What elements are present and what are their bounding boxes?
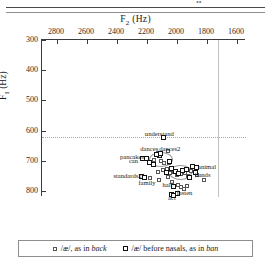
reference-line-vertical — [218, 40, 219, 197]
x-tick-label: 2200 — [138, 27, 154, 36]
y-tick-label: 800 — [14, 185, 38, 194]
x-tick — [237, 40, 238, 44]
x-tick-label: 2800 — [48, 27, 64, 36]
legend-item-label: /æ/, as in back — [61, 244, 107, 253]
open-square-icon — [53, 247, 57, 251]
y-tick — [42, 40, 46, 41]
point-label: can — [129, 157, 138, 164]
point-label: fasten — [177, 189, 193, 196]
x-tick — [207, 40, 208, 44]
reference-line-horizontal — [42, 137, 246, 138]
x-tick-label: 1600 — [228, 27, 244, 36]
point-label: family — [138, 179, 155, 186]
page-top-rule-upper — [6, 7, 265, 8]
y-tick — [42, 191, 46, 192]
legend-item-nasal[interactable]: /æ/ before nasals, as in ban — [123, 244, 219, 253]
point-label: understand — [145, 130, 174, 137]
x-tick — [57, 40, 58, 44]
data-point — [184, 167, 189, 172]
x-axis-tick-labels: 2800260024002200200018001600 — [0, 27, 271, 38]
page-header-fragment: •• — [196, 0, 218, 6]
x-tick-label: 1800 — [198, 27, 214, 36]
x-tick — [117, 40, 118, 44]
point-label: standards2 — [113, 172, 141, 179]
data-point — [162, 161, 166, 165]
data-point — [156, 170, 160, 174]
x-tick — [87, 40, 88, 44]
data-point — [151, 162, 156, 167]
data-point — [190, 164, 195, 169]
y-tick-label: 300 — [14, 35, 38, 44]
legend-item-back[interactable]: /æ/, as in back — [53, 244, 107, 253]
y-tick — [42, 131, 46, 132]
scatter-plot: F2 (Hz) 2800260024002200200018001600 F1 … — [0, 14, 271, 232]
x-tick-label: 2600 — [78, 27, 94, 36]
y-axis-title: F1 (Hz) — [0, 71, 11, 100]
data-point — [185, 184, 189, 188]
data-point — [164, 170, 169, 175]
point-label: hands — [195, 171, 210, 178]
y-tick-label: 600 — [14, 125, 38, 134]
y-tick-label: 500 — [14, 95, 38, 104]
data-point — [158, 151, 163, 156]
point-label: animal — [198, 163, 216, 170]
point-label: act — [168, 194, 176, 201]
x-tick — [147, 40, 148, 44]
point-label: dances — [140, 145, 158, 152]
figure-page: •• F2 (Hz) 2800260024002200200018001600 … — [0, 0, 271, 273]
data-point — [157, 178, 161, 182]
data-point — [202, 178, 206, 182]
y-tick — [42, 70, 46, 71]
filled-square-icon — [123, 246, 128, 251]
x-tick-label: 2000 — [168, 27, 184, 36]
x-tick — [177, 40, 178, 44]
point-label: half — [163, 181, 173, 188]
data-point — [166, 175, 170, 179]
y-tick-label: 700 — [14, 155, 38, 164]
data-point — [187, 175, 192, 180]
x-tick-label: 2400 — [108, 27, 124, 36]
data-point — [167, 159, 172, 164]
y-tick-label: 400 — [14, 65, 38, 74]
plot-area: understanddancesdances2pancakescanstanda… — [41, 39, 245, 196]
point-label: dances2 — [159, 145, 180, 152]
y-tick — [42, 161, 46, 162]
legend-item-label: /æ/ before nasals, as in ban — [132, 244, 219, 253]
y-tick — [42, 100, 46, 101]
chart-legend: /æ/, as in back/æ/ before nasals, as in … — [18, 240, 253, 257]
page-top-rule-lower — [6, 12, 265, 13]
x-axis-title: F2 (Hz) — [0, 14, 271, 27]
